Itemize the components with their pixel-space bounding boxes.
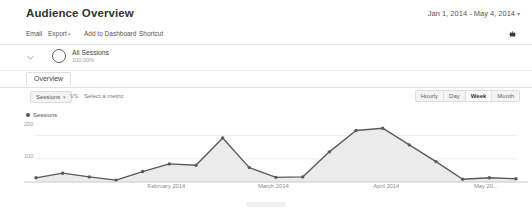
legend-dot-icon: [26, 113, 30, 117]
granularity-toggle-group: Hourly Day Week Month: [415, 90, 520, 102]
segment-circle-icon: [52, 49, 66, 63]
granularity-month[interactable]: Month: [492, 91, 519, 101]
primary-metric-selector[interactable]: Sessions▾: [30, 91, 72, 103]
primary-metric-label: Sessions: [36, 94, 60, 100]
x-axis-tick-may: May 20...: [474, 183, 498, 189]
vs-label: VS.: [70, 93, 80, 99]
action-toolbar: Email Export▾ Add to Dashboard Shortcut: [0, 28, 532, 45]
chevron-down-icon[interactable]: [26, 53, 35, 62]
secondary-metric-selector[interactable]: Select a metric: [84, 93, 124, 99]
metric-selector-row: Sessions▾ VS. Select a metric Hourly Day…: [0, 89, 532, 107]
chevron-down-icon: ▾: [517, 11, 520, 17]
date-range-picker[interactable]: Jan 1, 2014 - May 4, 2014▾: [428, 9, 520, 18]
legend-series-label: Sessions: [33, 112, 57, 118]
segment-bar: All Sessions 100.00%: [0, 45, 532, 71]
add-to-dashboard-button[interactable]: Add to Dashboard: [84, 30, 136, 37]
share-icon[interactable]: [507, 30, 518, 39]
email-button[interactable]: Email: [26, 30, 42, 37]
chart-legend: Sessions: [26, 112, 57, 118]
x-axis-tick-march: March 2014: [258, 183, 289, 189]
shortcut-button[interactable]: Shortcut: [139, 30, 163, 37]
x-axis-tick-february: February 2014: [148, 183, 186, 189]
x-axis-tick-april: April 2014: [373, 183, 399, 189]
chevron-down-icon: ▾: [63, 94, 66, 100]
page-title: Audience Overview: [26, 7, 134, 19]
page-header: Audience Overview Jan 1, 2014 - May 4, 2…: [0, 0, 532, 26]
segment-percent: 100.00%: [72, 57, 94, 63]
granularity-hourly[interactable]: Hourly: [416, 91, 444, 101]
tab-strip: Overview: [0, 71, 532, 88]
granularity-day[interactable]: Day: [444, 91, 466, 101]
export-button[interactable]: Export▾: [48, 30, 71, 37]
analytics-report-page: Audience Overview Jan 1, 2014 - May 4, 2…: [0, 0, 532, 218]
tab-overview[interactable]: Overview: [26, 72, 71, 86]
segment-name[interactable]: All Sessions: [72, 49, 109, 56]
date-range-label: Jan 1, 2014 - May 4, 2014: [428, 9, 515, 18]
horizontal-scrollbar[interactable]: [246, 202, 286, 207]
granularity-week[interactable]: Week: [466, 91, 493, 101]
chevron-down-icon: ▾: [68, 31, 71, 37]
sessions-chart[interactable]: 200 100 February 2014 March 2014 April 2…: [0, 120, 532, 196]
export-label: Export: [48, 30, 67, 37]
